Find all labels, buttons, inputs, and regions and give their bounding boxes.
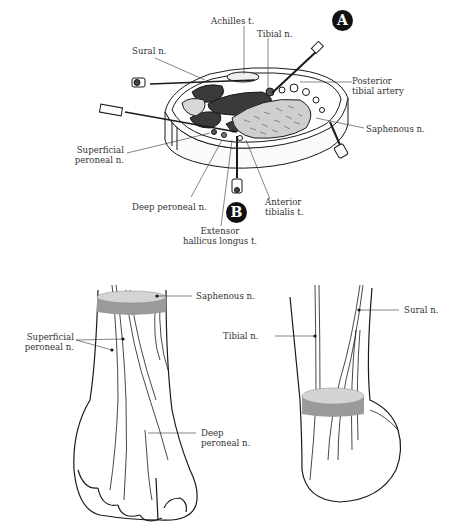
label-superficial-peroneal-anterior-2: peroneal n. bbox=[10, 342, 74, 352]
label-deep-peroneal-anterior-2: peroneal n. bbox=[201, 438, 250, 448]
label-deep-peroneal-nerve: Deep peroneal n. bbox=[132, 202, 207, 212]
label-sural-nerve: Sural n. bbox=[132, 46, 166, 56]
label-saphenous-nerve-anterior: Saphenous n. bbox=[196, 291, 255, 301]
label-ehl-1: Extensor bbox=[160, 226, 280, 236]
label-achilles-tendon: Achilles t. bbox=[211, 16, 254, 26]
label-superficial-peroneal-anterior-1: Superficial bbox=[10, 332, 74, 342]
label-anterior-tibialis-2: tibialis t. bbox=[265, 207, 303, 217]
label-posterior-tibial-artery-2: tibial artery bbox=[352, 86, 404, 96]
label-posterior-tibial-artery-1: Posterior bbox=[352, 76, 392, 86]
label-sural-nerve-posterior: Sural n. bbox=[404, 305, 438, 315]
anterior-foot-view bbox=[74, 285, 197, 521]
label-tibial-nerve-posterior: Tibial n. bbox=[223, 331, 259, 341]
label-saphenous-nerve: Saphenous n. bbox=[366, 124, 425, 134]
marker-a-badge: A bbox=[332, 10, 353, 31]
label-ehl-2: hallicus longus t. bbox=[160, 236, 280, 246]
label-superficial-peroneal-nerve-1: Superficial bbox=[60, 145, 124, 155]
label-tibial-nerve: Tibial n. bbox=[257, 29, 293, 39]
posterior-foot-view bbox=[290, 285, 401, 502]
label-superficial-peroneal-nerve-2: peroneal n. bbox=[60, 155, 124, 165]
label-deep-peroneal-anterior-1: Deep bbox=[201, 428, 224, 438]
label-anterior-tibialis-1: Anterior bbox=[265, 197, 301, 207]
marker-b-badge: B bbox=[226, 202, 247, 223]
